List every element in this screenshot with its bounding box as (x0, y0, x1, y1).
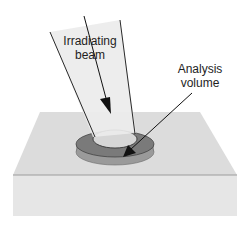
analysis-volume-ring (76, 130, 154, 165)
analysis-volume-label: Analysis volume (172, 62, 228, 90)
beam-label-line2: beam (62, 48, 118, 62)
analysis-volume-diagram (0, 0, 245, 226)
analysis-label-line2: volume (172, 76, 228, 90)
irradiating-beam-label: Irradiating beam (62, 34, 118, 62)
beam-label-line1: Irradiating (62, 34, 118, 48)
analysis-label-line1: Analysis (172, 62, 228, 76)
sample-front-face (13, 175, 237, 216)
